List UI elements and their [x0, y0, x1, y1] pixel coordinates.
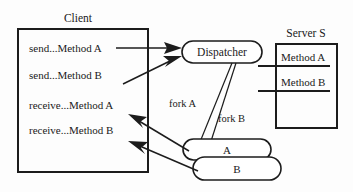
receive-method-a-arrowhead — [128, 114, 147, 128]
dispatcher-label: Dispatcher — [197, 46, 247, 59]
server-method-b-label: Method B — [281, 76, 325, 88]
client-title: Client — [64, 12, 93, 24]
thread-a-label: A — [223, 144, 231, 156]
fork-a-line — [200, 63, 232, 142]
send-method-b-arrow-line — [123, 61, 170, 84]
client-call-receive-method-a: receive...Method A — [29, 99, 113, 111]
diagram-canvas: Client send...Method A send...Method B r… — [0, 0, 353, 192]
client-call-receive-method-b: receive...Method B — [29, 124, 113, 136]
receive-method-a-arrow-line — [139, 121, 189, 151]
client-call-send-method-a: send...Method A — [29, 42, 102, 54]
thread-b-label: B — [233, 163, 240, 175]
fork-a-label: fork A — [169, 98, 197, 109]
fork-b-label: fork B — [218, 113, 245, 124]
server-title: Server S — [286, 27, 325, 39]
send-method-b-arrowhead — [163, 56, 182, 67]
client-call-send-method-b: send...Method B — [29, 69, 102, 81]
diagram-svg: Client send...Method A send...Method B r… — [0, 0, 353, 192]
server-method-a-label: Method A — [281, 51, 325, 63]
